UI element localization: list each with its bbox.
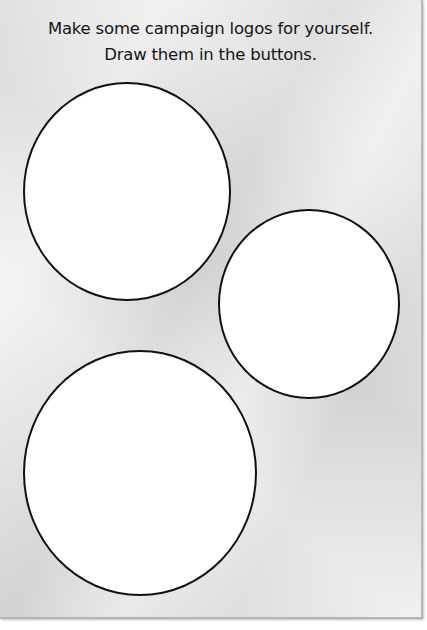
campaign-button-drawing-area-3[interactable] xyxy=(23,350,257,596)
instruction-line-1: Make some campaign logos for yourself. xyxy=(0,16,421,42)
instructions-text: Make some campaign logos for yourself. D… xyxy=(0,16,421,68)
worksheet-page: Make some campaign logos for yourself. D… xyxy=(0,0,423,619)
campaign-button-drawing-area-2[interactable] xyxy=(218,209,400,399)
instruction-line-2: Draw them in the buttons. xyxy=(0,42,421,68)
campaign-button-drawing-area-1[interactable] xyxy=(23,82,231,301)
